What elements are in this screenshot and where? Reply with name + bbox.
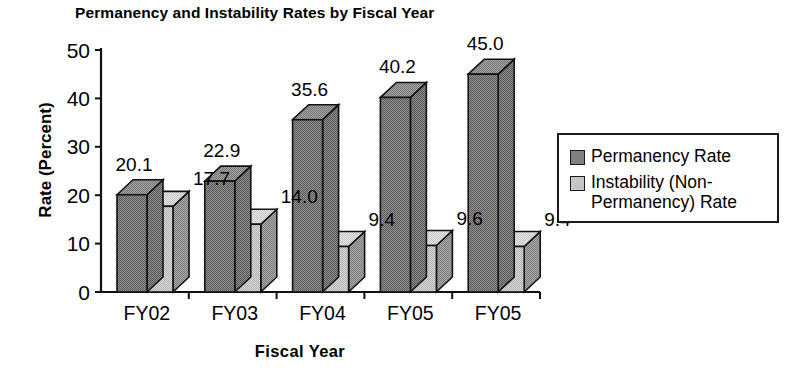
- svg-text:9.6: 9.6: [456, 208, 482, 229]
- chart-figure: Permanency and Instability Rates by Fisc…: [0, 0, 806, 380]
- x-axis-title: Fiscal Year: [190, 342, 410, 361]
- legend-label-instability: Instability (Non-Permanency) Rate: [591, 172, 737, 212]
- svg-text:35.6: 35.6: [291, 79, 328, 100]
- legend-swatch-permanency-icon: [570, 150, 585, 165]
- svg-text:20.1: 20.1: [116, 154, 153, 175]
- svg-text:40: 40: [67, 87, 90, 110]
- svg-text:22.9: 22.9: [203, 140, 240, 161]
- svg-text:FY05: FY05: [475, 302, 522, 324]
- legend-item-instability-rate: Instability (Non-Permanency) Rate: [570, 172, 769, 212]
- legend-swatch-instability-icon: [570, 176, 585, 191]
- svg-text:FY05: FY05: [387, 302, 434, 324]
- svg-text:FY04: FY04: [299, 302, 346, 324]
- svg-text:FY02: FY02: [124, 302, 171, 324]
- svg-text:30: 30: [67, 135, 90, 158]
- chart-bars: [117, 59, 540, 292]
- svg-text:10: 10: [67, 232, 90, 255]
- legend-item-permanency-rate: Permanency Rate: [570, 146, 769, 166]
- svg-text:50: 50: [67, 39, 90, 62]
- svg-text:14.0: 14.0: [281, 186, 318, 207]
- svg-text:0: 0: [78, 281, 90, 304]
- y-axis-title: Rate (Percent): [36, 70, 56, 250]
- svg-text:FY03: FY03: [211, 302, 258, 324]
- legend-label-permanency: Permanency Rate: [591, 146, 731, 166]
- chart-legend: Permanency Rate Instability (Non-Permane…: [557, 133, 779, 223]
- svg-text:40.2: 40.2: [379, 56, 416, 77]
- svg-text:9.4: 9.4: [369, 209, 396, 230]
- svg-text:17.7: 17.7: [193, 168, 230, 189]
- svg-text:20: 20: [67, 184, 90, 207]
- svg-text:45.0: 45.0: [467, 33, 504, 54]
